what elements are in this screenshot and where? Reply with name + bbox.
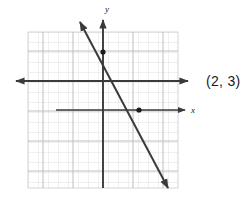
y-axis-label: y xyxy=(104,4,109,14)
plotted-point-upper xyxy=(100,49,105,54)
coordinate-annotation: (2, 3) xyxy=(206,73,240,89)
coordinate-graph-figure: y x xyxy=(0,0,251,204)
plotted-point-lower xyxy=(136,107,141,112)
x-axis-label: x xyxy=(190,105,195,115)
